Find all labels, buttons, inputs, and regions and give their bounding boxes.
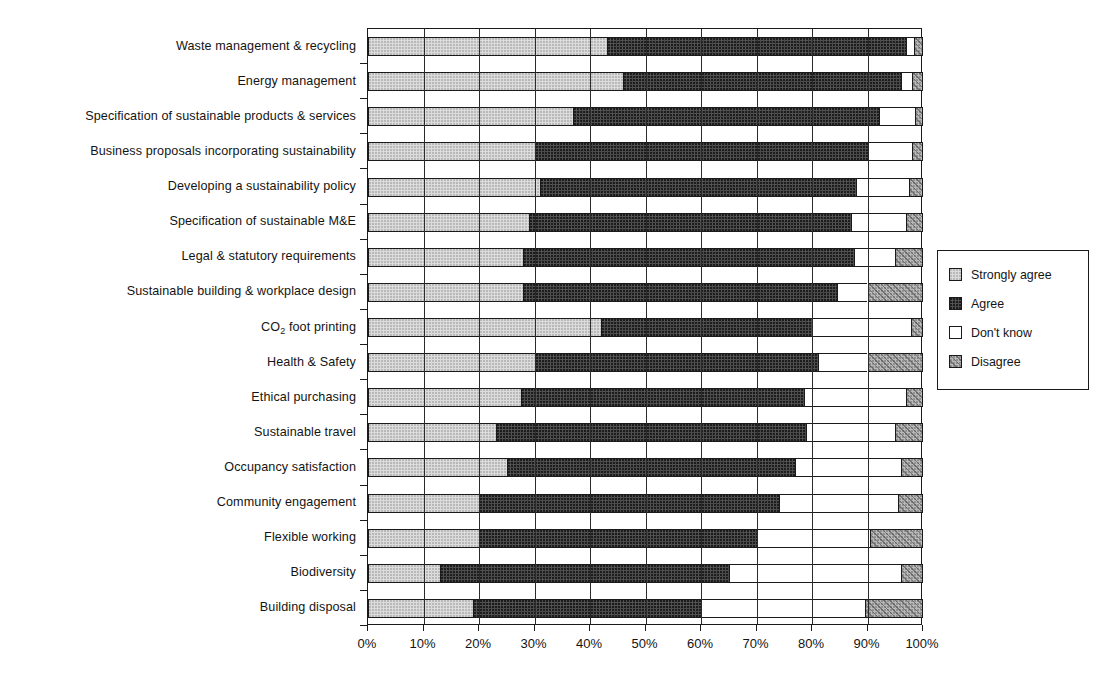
bar-segment-strongly-agree [368, 423, 496, 442]
gridline-20 [479, 29, 480, 624]
category-label: Specification of sustainable products & … [0, 109, 356, 123]
legend-swatch-icon [949, 355, 962, 368]
bar-segment-don-t-know [879, 107, 916, 126]
bar-segment-agree [623, 72, 901, 91]
legend-item[interactable]: Don't know [949, 318, 1088, 347]
bar-segment-don-t-know [837, 283, 868, 302]
bar-segment-disagree [906, 213, 923, 232]
bar-segment-agree [540, 178, 856, 197]
bar-row [368, 353, 921, 372]
legend-label: Agree [971, 297, 1004, 311]
bar-segment-disagree [901, 564, 923, 583]
category-label: Sustainable building & workplace design [0, 284, 356, 298]
bar-segment-don-t-know [854, 248, 896, 267]
bar-row [368, 599, 921, 618]
bar-segment-disagree [909, 178, 923, 197]
bar-segment-don-t-know [851, 213, 907, 232]
gridline-70 [757, 29, 758, 624]
bar-segment-disagree [906, 388, 923, 407]
bar-segment-disagree [912, 72, 923, 91]
bar-segment-don-t-know [901, 72, 912, 91]
x-axis-tick [811, 625, 812, 631]
bar-segment-agree [529, 213, 851, 232]
bar-segment-disagree [868, 353, 924, 372]
category-label: Sustainable travel [0, 425, 356, 439]
bar-row [368, 178, 921, 197]
bar-segment-strongly-agree [368, 283, 523, 302]
bar-segment-agree [479, 494, 779, 513]
bar-segment-strongly-agree [368, 107, 573, 126]
bar-segment-don-t-know [729, 564, 901, 583]
chart-legend: Strongly agreeAgreeDon't knowDisagree [937, 250, 1089, 390]
bar-segment-strongly-agree [368, 72, 623, 91]
bar-row [368, 494, 921, 513]
x-axis-tick [589, 625, 590, 631]
gridline-50 [646, 29, 647, 624]
category-label: Flexible working [0, 530, 356, 544]
category-label: Developing a sustainability policy [0, 179, 356, 193]
category-label: Legal & statutory requirements [0, 249, 356, 263]
gridline-30 [535, 29, 536, 624]
bar-segment-don-t-know [779, 494, 898, 513]
y-axis-tick [360, 309, 367, 310]
category-axis-labels: Waste management & recyclingEnergy manag… [0, 28, 356, 625]
category-label: Waste management & recycling [0, 39, 356, 53]
x-axis-tick [478, 625, 479, 631]
x-axis-tick-label: 60% [670, 636, 730, 651]
bar-segment-strongly-agree [368, 564, 440, 583]
category-label: Specification of sustainable M&E [0, 214, 356, 228]
legend-item[interactable]: Agree [949, 289, 1088, 318]
bar-segment-don-t-know [701, 599, 865, 618]
x-axis-tick-label: 50% [615, 636, 675, 651]
gridline-60 [701, 29, 702, 624]
category-label: Health & Safety [0, 355, 356, 369]
bar-segment-don-t-know [868, 142, 912, 161]
bar-segment-don-t-know [856, 178, 909, 197]
y-axis-tick [360, 204, 367, 205]
x-axis-tick [867, 625, 868, 631]
bar-segment-strongly-agree [368, 248, 523, 267]
bar-segment-agree [507, 458, 796, 477]
x-axis-tick-label: 100% [892, 636, 952, 651]
x-axis-tick [700, 625, 701, 631]
bar-segment-don-t-know [818, 353, 868, 372]
y-axis-tick [360, 625, 367, 626]
category-label: CO2 foot printing [0, 320, 356, 335]
bar-segment-agree [535, 353, 818, 372]
bar-segment-strongly-agree [368, 458, 507, 477]
legend-swatch-icon [949, 268, 962, 281]
bar-segment-agree [523, 283, 837, 302]
bar-row [368, 423, 921, 442]
bar-segment-strongly-agree [368, 37, 607, 56]
bar-segment-disagree [895, 248, 923, 267]
bar-segment-don-t-know [806, 423, 895, 442]
bar-row [368, 37, 921, 56]
bar-segment-don-t-know [804, 388, 907, 407]
gridline-90 [868, 29, 869, 624]
bar-segment-strongly-agree [368, 599, 473, 618]
bar-row [368, 529, 921, 548]
bar-segment-agree [473, 599, 701, 618]
bar-row [368, 72, 921, 91]
x-axis-tick-label: 30% [504, 636, 564, 651]
bar-segment-disagree [868, 283, 924, 302]
x-axis-tick [645, 625, 646, 631]
bar-segment-disagree [915, 107, 923, 126]
bar-segment-disagree [870, 529, 923, 548]
y-axis-tick [360, 414, 367, 415]
category-label: Community engagement [0, 495, 356, 509]
bar-segment-disagree [914, 37, 923, 56]
bar-segment-agree [479, 529, 757, 548]
legend-swatch-icon [949, 297, 962, 310]
bar-segment-disagree [901, 458, 923, 477]
gridline-80 [812, 29, 813, 624]
x-axis-tick [423, 625, 424, 631]
bar-segment-disagree [898, 494, 923, 513]
bar-segment-strongly-agree [368, 318, 601, 337]
y-axis-tick [360, 520, 367, 521]
legend-item[interactable]: Strongly agree [949, 260, 1088, 289]
legend-item[interactable]: Disagree [949, 347, 1088, 376]
y-axis-tick [360, 379, 367, 380]
category-label: Building disposal [0, 600, 356, 614]
bar-row [368, 213, 921, 232]
